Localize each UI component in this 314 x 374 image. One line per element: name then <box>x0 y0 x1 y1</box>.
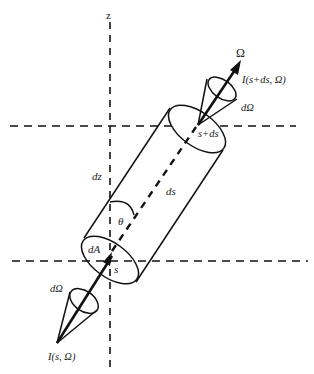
area-element-label: dA <box>88 244 100 255</box>
solid-angle-top-label: dΩ <box>241 103 254 114</box>
top-cone-right <box>198 99 237 125</box>
solid-angle-bottom-label: dΩ <box>50 284 63 295</box>
intensity-bottom-label: I(s, Ω) <box>48 352 75 363</box>
intensity-top-label: I(s+ds, Ω) <box>242 75 286 86</box>
theta-label: θ <box>118 216 123 227</box>
direction-arrow-lower <box>57 256 112 343</box>
theta-angle-arc <box>110 201 134 215</box>
arrow-mid-head-icon <box>103 252 112 266</box>
omega-direction-label: Ω <box>236 47 245 59</box>
z-axis-label: z <box>106 10 111 21</box>
path-element-label: ds <box>166 186 176 197</box>
bottom-cone-right <box>57 310 97 343</box>
position-bottom-label: s <box>114 264 118 275</box>
position-top-label: s+ds <box>198 129 219 140</box>
top-cross-section-ellipse <box>160 96 233 162</box>
vertical-element-label: dz <box>92 171 102 182</box>
radiative-transfer-diagram: z Ω I(s+ds, Ω) dΩ s+ds ds dz θ dA s dΩ I… <box>0 0 314 374</box>
cylinder-right-edge <box>136 150 223 282</box>
cylinder-center-axis <box>112 127 196 251</box>
diagram-canvas <box>0 0 314 374</box>
bottom-cone-left <box>57 292 70 343</box>
